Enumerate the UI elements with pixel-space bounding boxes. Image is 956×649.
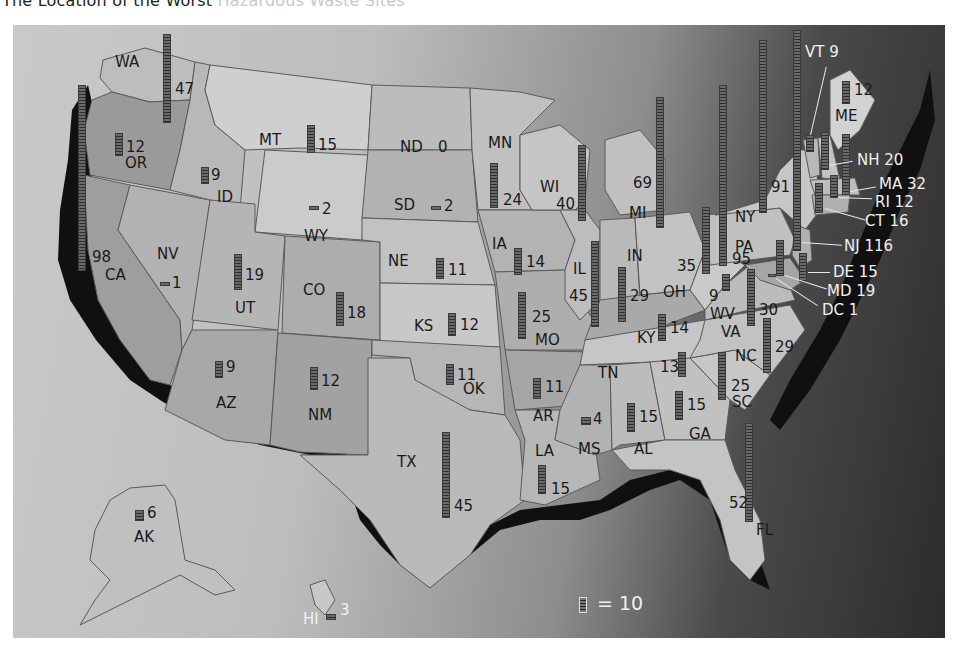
label-or: OR (125, 156, 147, 171)
state-mt (205, 65, 372, 150)
bar-ak (135, 510, 144, 521)
bar-ri (830, 175, 838, 198)
us-map: WA OR CA NV ID MT WY UT CO AZ NM ND SD N… (13, 25, 945, 638)
state-co (282, 236, 380, 340)
bar-or (115, 133, 123, 156)
label-nc: NC (735, 349, 757, 364)
label-sc: SC (732, 395, 752, 410)
label-az: AZ (216, 396, 237, 411)
state-ne (362, 218, 495, 285)
label-wy: WY (304, 229, 328, 244)
bar-va (747, 269, 755, 326)
bar-ok (446, 364, 454, 385)
label-id: ID (217, 190, 233, 205)
bar-in (618, 267, 626, 322)
value-nd: 0 (438, 140, 448, 155)
label-ky: KY (637, 331, 655, 346)
label-nv: NV (157, 247, 178, 262)
value-az: 9 (226, 360, 236, 375)
title-dark-text: The Location of the Worst (2, 0, 212, 10)
value-la: 15 (551, 482, 570, 497)
bar-ny (759, 40, 767, 213)
bar-ky (658, 314, 666, 341)
bar-ms (581, 417, 591, 425)
value-ny: 91 (771, 180, 790, 195)
label-wa: WA (115, 55, 139, 70)
label-nm: NM (308, 408, 332, 423)
value-ms: 4 (593, 412, 603, 427)
bar-sc (718, 352, 726, 400)
state-ak (80, 485, 235, 625)
bar-de (799, 253, 807, 282)
value-wi: 40 (556, 197, 575, 212)
title-light-text: Hazardous Waste Sites (218, 0, 405, 10)
label-ny: NY (735, 210, 755, 225)
bar-nv (160, 282, 170, 286)
value-ne: 11 (448, 263, 467, 278)
bar-pa (719, 85, 727, 266)
bar-nh (821, 132, 829, 170)
label-ar: AR (533, 409, 554, 424)
leader-de (808, 272, 830, 273)
bar-mo (518, 292, 526, 339)
callout-ri: RI 12 (875, 195, 914, 210)
label-ms: MS (578, 442, 600, 457)
bar-wy (309, 206, 319, 210)
legend-bar-icon (579, 597, 587, 613)
state-ks (380, 283, 500, 347)
label-mi: MI (629, 206, 646, 221)
value-me: 12 (854, 83, 873, 98)
label-ok: OK (463, 382, 485, 397)
label-nd: ND (400, 140, 423, 155)
value-tn: 13 (660, 360, 679, 375)
bar-id (201, 167, 209, 184)
bar-wv (722, 274, 730, 291)
value-mi: 69 (633, 176, 652, 191)
callout-vt: VT 9 (805, 45, 839, 60)
callout-nh: NH 20 (857, 153, 903, 168)
value-ky: 14 (670, 321, 689, 336)
label-in: IN (627, 249, 643, 264)
value-mt: 15 (318, 138, 337, 153)
state-sd (362, 150, 478, 222)
value-sc: 25 (731, 379, 750, 394)
label-al: AL (634, 442, 653, 457)
label-mt: MT (259, 133, 281, 148)
label-tx: TX (397, 455, 416, 470)
callout-md: MD 19 (827, 284, 875, 299)
legend-label: = 10 (597, 594, 643, 613)
label-sd: SD (394, 198, 415, 213)
bar-ca (78, 85, 86, 271)
label-ks: KS (414, 319, 433, 334)
value-nc: 29 (775, 340, 794, 355)
label-ak: AK (134, 530, 154, 545)
label-oh: OH (663, 285, 686, 300)
value-pa: 95 (732, 252, 751, 267)
bar-il (591, 241, 599, 327)
bar-mi (656, 97, 664, 228)
bar-nc (763, 318, 771, 373)
label-va: VA (721, 325, 741, 340)
bar-az (215, 361, 223, 378)
bar-wa (163, 34, 171, 123)
label-ut: UT (235, 301, 255, 316)
label-ia: IA (492, 237, 507, 252)
label-la: LA (535, 444, 554, 459)
value-ks: 12 (460, 318, 479, 333)
value-ak: 6 (147, 506, 157, 521)
value-tx: 45 (454, 499, 473, 514)
bar-ks (448, 313, 456, 336)
value-ut: 19 (245, 268, 264, 283)
value-ga: 15 (687, 398, 706, 413)
value-nv: 1 (172, 276, 182, 291)
bar-ar (533, 378, 541, 399)
value-il: 45 (569, 289, 588, 304)
value-oh: 35 (677, 259, 696, 274)
bar-tx (442, 432, 450, 518)
bar-nj (793, 30, 801, 251)
label-il: IL (573, 262, 586, 277)
label-hi: HI (303, 612, 319, 627)
value-id: 9 (211, 168, 221, 183)
map-title: The Location of the Worst Hazardous Wast… (2, 0, 405, 10)
bar-hi (326, 614, 336, 620)
